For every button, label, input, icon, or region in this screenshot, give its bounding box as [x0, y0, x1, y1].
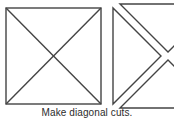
panel-square-with-diagonals [6, 8, 101, 104]
left-triangle-piece [113, 8, 161, 104]
figure-caption: Make diagonal cuts. [0, 106, 174, 119]
figure-root: Make diagonal cuts. [0, 0, 174, 125]
top-triangle-piece [120, 4, 174, 52]
bottom-triangle-piece [120, 60, 174, 108]
panel-separated-triangles [113, 4, 174, 108]
